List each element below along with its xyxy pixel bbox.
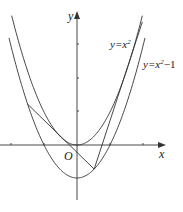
x-axis xyxy=(0,142,166,148)
x-axis-label: x xyxy=(158,147,165,161)
curve-label-lower: y=x2−1 xyxy=(142,58,175,70)
tangent-line-left xyxy=(28,104,95,169)
y-axis-label: y xyxy=(67,9,74,23)
y-axis xyxy=(74,11,80,200)
origin-label: O xyxy=(64,149,73,163)
diagram-canvas: y x O y=x2 y=x2−1 xyxy=(0,0,183,212)
y-axis-arrow-icon xyxy=(74,11,80,19)
curve-label-upper: y=x2 xyxy=(109,38,131,50)
